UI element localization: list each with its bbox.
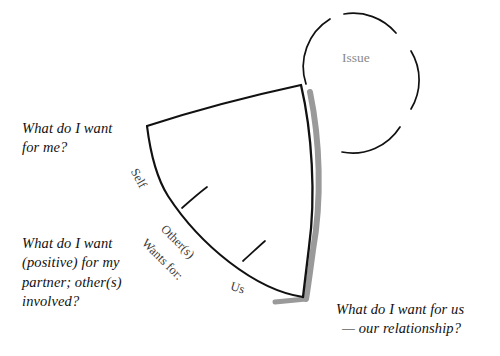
caption-us: What do I want for us— our relationship? — [336, 300, 464, 339]
diagram-canvas: Issue Self Other(s) Wants for: Us What d… — [0, 0, 500, 356]
caption-self: What do I want for me? — [22, 119, 112, 158]
caption-us-line2: — our relationship? — [336, 319, 464, 338]
issue-circle — [303, 13, 419, 153]
caption-others: What do I want (positive) for my partner… — [22, 234, 122, 312]
issue-label: Issue — [342, 50, 370, 66]
caption-us-line1: What do I want for us — [336, 301, 464, 317]
